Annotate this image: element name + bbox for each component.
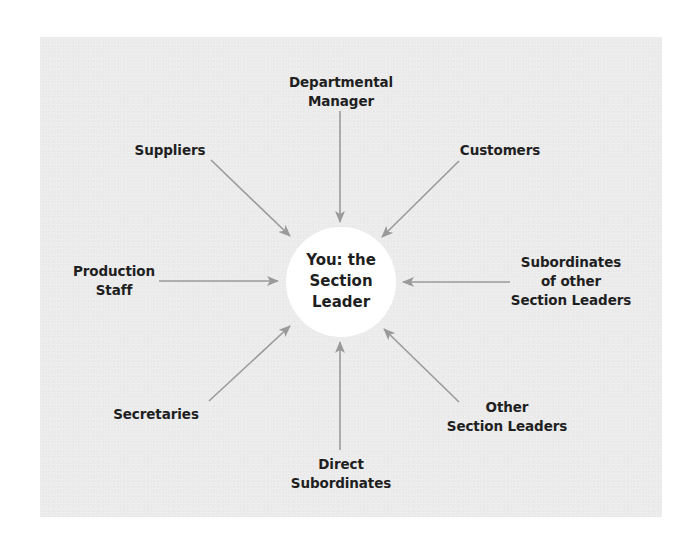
node-customers: Customers [460,141,540,160]
arrow-secretaries [209,326,290,401]
arrow-customers [382,161,459,237]
arrow-other-section-leaders [384,329,459,402]
node-production-staff: Production Staff [73,262,155,300]
node-secretaries: Secretaries [113,405,199,424]
node-subordinates-of-other-section-leaders: Subordinates of other Section Leaders [511,253,631,310]
center-node-label: You: the Section Leader [306,250,376,313]
node-suppliers: Suppliers [135,141,206,160]
center-node: You: the Section Leader [286,227,396,337]
node-other-section-leaders: Other Section Leaders [447,398,567,436]
node-departmental-manager: Departmental Manager [289,73,393,111]
arrow-suppliers [211,160,290,236]
node-direct-subordinates: Direct Subordinates [291,455,391,493]
